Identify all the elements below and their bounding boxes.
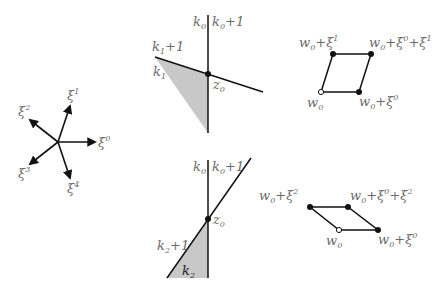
parallelogram-bottom: w0 w0+ξ0 w0+ξ2 w0+ξ0+ξ2 xyxy=(259,187,417,250)
point-z0-bottom xyxy=(205,216,211,222)
parallelogram-top: w0 w0+ξ0 w0+ξ1 w0+ξ0+ξ1 xyxy=(299,34,432,112)
point-w0-xi0-xi1 xyxy=(368,51,374,57)
parallelogram-bottom-shape xyxy=(310,207,378,230)
point-w0-xi2 xyxy=(307,204,313,210)
point-w0-top xyxy=(318,89,323,94)
label-xi1: ξ1 xyxy=(67,87,79,103)
panel-top-lines: k0 k0+1 k1+1 k1 z0 xyxy=(152,14,263,133)
label-w0-plus-xi0-bottom: w0+ξ0 xyxy=(378,231,417,249)
arrow-xi3 xyxy=(30,142,58,164)
label-w0-bottom: w0 xyxy=(326,233,342,250)
parallelogram-top-shape xyxy=(321,54,371,92)
arrow-xi4 xyxy=(58,142,70,178)
label-k1-plus1: k1+1 xyxy=(152,39,184,56)
panel-bottom-lines: k0 k0+1 z0 k2+1 k2 xyxy=(157,158,251,280)
label-w0-plus-xi0-plus-xi1: w0+ξ0+ξ1 xyxy=(369,34,432,52)
label-k0-left: k0 xyxy=(193,14,206,31)
point-w0-xi1 xyxy=(330,51,336,57)
label-k2-plus1: k2+1 xyxy=(157,238,189,255)
label-w0-plus-xi2: w0+ξ2 xyxy=(259,187,298,205)
point-z0-top xyxy=(205,71,211,77)
label-z0-bottom: z0 xyxy=(212,212,225,229)
label-w0-plus-xi0-top: w0+ξ0 xyxy=(359,93,398,111)
label-xi4: ξ4 xyxy=(67,180,79,196)
arrow-xi2 xyxy=(30,120,58,142)
label-xi0: ξ0 xyxy=(98,134,110,150)
label-k0-right: k0+1 xyxy=(212,14,244,31)
point-w0-xi0-xi2 xyxy=(345,204,351,210)
label-w0-plus-xi0-plus-xi2: w0+ξ0+ξ2 xyxy=(350,187,413,205)
label-k0-right-bottom: k0+1 xyxy=(212,159,244,176)
vector-star: ξ0 ξ1 ξ2 ξ3 ξ4 xyxy=(18,87,110,196)
diagram-canvas: ξ0 ξ1 ξ2 ξ3 ξ4 k0 k0+1 k1+1 k1 z0 k0 k0+… xyxy=(0,0,442,292)
shaded-region-k1 xyxy=(155,57,208,133)
point-w0-bottom xyxy=(336,227,341,232)
label-w0-plus-xi1: w0+ξ1 xyxy=(299,34,338,52)
arrow-xi1 xyxy=(58,106,70,142)
label-k0-left-bottom: k0 xyxy=(193,159,206,176)
label-xi3: ξ3 xyxy=(18,165,30,181)
label-w0-top: w0 xyxy=(307,95,323,112)
label-xi2: ξ2 xyxy=(18,103,30,119)
